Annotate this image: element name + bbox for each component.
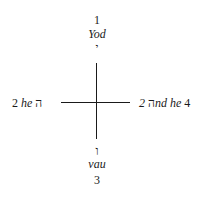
right-label: ה 2nd he 4 xyxy=(139,96,190,110)
top-hebrew-letter: י xyxy=(96,40,99,54)
right-number: 4 xyxy=(184,96,190,110)
top-name: Yod xyxy=(88,27,106,41)
right-name: 2nd he xyxy=(139,96,181,110)
top-number: 1 xyxy=(94,13,100,27)
bottom-name: vau xyxy=(88,157,105,171)
left-number: 2 xyxy=(12,96,18,110)
vertical-line xyxy=(96,63,97,139)
left-hebrew-letter: ה xyxy=(35,96,42,110)
bottom-number: 3 xyxy=(94,173,100,187)
left-name: he xyxy=(21,96,32,110)
bottom-hebrew-letter: ו xyxy=(95,144,98,158)
horizontal-line xyxy=(61,102,130,103)
right-hebrew-letter: ה xyxy=(148,96,155,110)
left-label: 2 he ה xyxy=(12,96,42,110)
